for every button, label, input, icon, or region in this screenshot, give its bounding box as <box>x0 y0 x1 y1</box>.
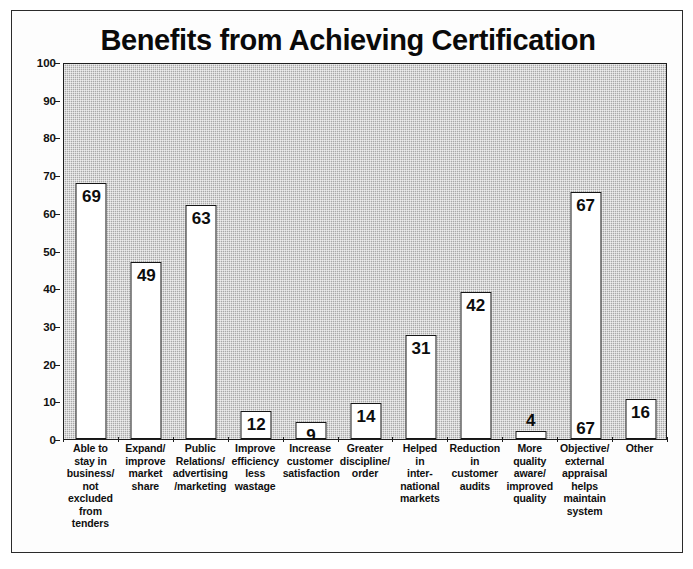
x-axis-tick-mark <box>502 437 503 442</box>
x-axis-category-label: Able to stay in business/ not excluded f… <box>63 442 118 530</box>
x-axis-category-label: Greater discipline/ order <box>338 442 393 480</box>
bar-column[interactable]: 42 <box>448 64 503 439</box>
bar-column[interactable]: 9 <box>284 64 339 439</box>
y-axis-tick-label: 0 <box>12 435 56 446</box>
bar[interactable]: 69 <box>76 183 107 439</box>
bar-column[interactable]: 49 <box>119 64 174 439</box>
bar-value-label: 49 <box>132 267 161 284</box>
y-axis-tick-mark <box>55 138 60 139</box>
x-axis-tick-mark <box>612 437 613 442</box>
plot-area: 6949631291431424676716 <box>63 63 667 440</box>
y-axis-tick-label: 30 <box>12 322 56 333</box>
bar-value-label: 14 <box>351 408 380 425</box>
bar[interactable]: 49 <box>131 262 162 439</box>
y-axis-tick-label: 100 <box>12 58 56 69</box>
x-axis-tick-mark <box>63 437 64 442</box>
y-axis-tick-mark <box>55 289 60 290</box>
y-axis-tick-label: 60 <box>12 209 56 220</box>
y-axis-tick-mark <box>55 327 60 328</box>
x-axis-tick-mark <box>667 437 668 442</box>
x-axis-category-label: Expand/ improve market share <box>118 442 173 492</box>
bar[interactable]: 4 <box>515 431 546 439</box>
x-axis-tick-mark <box>228 437 229 442</box>
y-axis-tick-label: 90 <box>12 96 56 107</box>
bar-column[interactable]: 63 <box>174 64 229 439</box>
x-axis-labels: Able to stay in business/ not excluded f… <box>63 442 667 554</box>
bar-value-label: 12 <box>242 416 271 433</box>
bar-column[interactable]: 12 <box>229 64 284 439</box>
x-axis-category-label: More quality aware/ improved quality <box>502 442 557 505</box>
x-axis-tick-mark <box>173 437 174 442</box>
y-axis-tick-label: 40 <box>12 284 56 295</box>
bar-value-label-duplicate: 67 <box>558 420 613 437</box>
y-axis-tick-label: 80 <box>12 133 56 144</box>
y-axis-tick-mark <box>55 176 60 177</box>
bar[interactable]: 42 <box>460 292 491 439</box>
bar[interactable]: 31 <box>405 335 436 439</box>
x-axis-category-label: Helped in inter- national markets <box>392 442 447 505</box>
bar-value-label: 4 <box>516 412 545 429</box>
bar[interactable]: 9 <box>296 422 327 439</box>
bar[interactable]: 63 <box>186 205 217 439</box>
bar-column[interactable]: 4 <box>503 64 558 439</box>
x-axis-tick-mark <box>557 437 558 442</box>
x-axis-tick-mark <box>118 437 119 442</box>
x-axis-tick-mark <box>283 437 284 442</box>
y-axis-tick-mark <box>55 365 60 366</box>
y-axis-tick-label: 50 <box>12 247 56 258</box>
y-axis-tick-mark <box>55 101 60 102</box>
figure-frame: Benefits from Achieving Certification 01… <box>11 10 683 553</box>
y-axis-tick-mark <box>55 63 60 64</box>
bar-value-label: 16 <box>626 404 655 421</box>
bar[interactable]: 14 <box>350 403 381 439</box>
y-axis-tick-label: 20 <box>12 360 56 371</box>
y-axis-tick-mark <box>55 214 60 215</box>
page-title: Benefits from Achieving Certification <box>12 23 684 57</box>
bar[interactable]: 16 <box>625 399 656 439</box>
x-axis-category-label: Improve efficiency less wastage <box>228 442 283 492</box>
bar-column[interactable]: 14 <box>339 64 394 439</box>
bar-value-label: 67 <box>571 197 600 214</box>
bar-column[interactable]: 69 <box>64 64 119 439</box>
bar-value-label: 9 <box>297 427 326 440</box>
bar-column[interactable]: 16 <box>613 64 667 439</box>
bar-value-label: 31 <box>406 340 435 357</box>
bar-column[interactable]: 6767 <box>558 64 613 439</box>
x-axis-tick-mark <box>392 437 393 442</box>
x-axis-category-label: Increase customer satisfaction <box>283 442 338 480</box>
x-axis-category-label: Reduction in customer audits <box>447 442 502 492</box>
x-axis-category-label: Other <box>612 442 667 455</box>
x-axis-category-label: Objective/ external appraisal helps main… <box>557 442 612 517</box>
bar-value-label: 42 <box>461 297 490 314</box>
y-axis-tick-label: 70 <box>12 171 56 182</box>
x-axis-tick-mark <box>447 437 448 442</box>
bar[interactable]: 12 <box>241 411 272 439</box>
bar[interactable]: 67 <box>570 192 601 439</box>
y-axis: 0102030405060708090100 <box>12 63 60 440</box>
x-axis-category-label: Public Relations/ advertising /marketing <box>173 442 228 492</box>
bar-column[interactable]: 31 <box>393 64 448 439</box>
bar-value-label: 63 <box>187 210 216 227</box>
y-axis-tick-mark <box>55 402 60 403</box>
plot-wrapper: 6949631291431424676716 <box>63 63 667 440</box>
y-axis-tick-mark <box>55 440 60 441</box>
y-axis-tick-label: 10 <box>12 397 56 408</box>
bar-value-label: 69 <box>77 188 106 205</box>
y-axis-tick-mark <box>55 252 60 253</box>
x-axis-tick-mark <box>338 437 339 442</box>
